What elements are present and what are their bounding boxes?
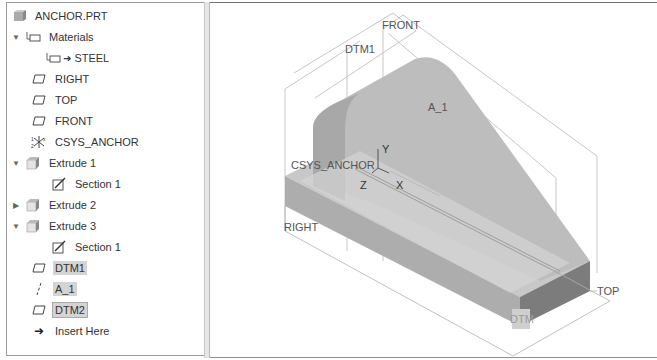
tree-item-insert-here[interactable]: ➜ Insert Here xyxy=(31,322,111,340)
tree-item-label: FRONT xyxy=(53,114,95,128)
svg-text:2: 2 xyxy=(31,143,34,149)
datum-plane-icon xyxy=(31,114,47,128)
tree-item-steel[interactable]: ➜ STEEL xyxy=(45,49,111,67)
tree-item-label: Insert Here xyxy=(53,324,111,338)
insert-arrow-icon: ➜ xyxy=(31,324,47,338)
sketch-icon xyxy=(51,177,67,191)
csys-axis-x: X xyxy=(396,179,403,191)
extrude-icon xyxy=(25,219,41,233)
tree-item-dtm2[interactable]: DTM2 xyxy=(31,301,87,319)
tree-item-a1[interactable]: A_1 xyxy=(31,280,77,298)
materials-icon xyxy=(25,30,41,44)
datum-label-dtm2[interactable]: DTM xyxy=(510,313,534,325)
tree-item-label: RIGHT xyxy=(53,72,91,86)
tree-item-label: DTM2 xyxy=(53,303,87,317)
tree-item-materials[interactable]: ▼ Materials xyxy=(11,28,96,46)
tree-item-extrude-3[interactable]: ▼ Extrude 3 xyxy=(11,217,98,235)
tree-item-csys-anchor[interactable]: 12x CSYS_ANCHOR xyxy=(31,133,141,151)
sketch-icon xyxy=(51,240,67,254)
tree-item-label: Section 1 xyxy=(73,177,123,191)
graphics-viewport[interactable]: FRONT DTM1 A_1 CSYS_ANCHOR Y Z X RIGHT T… xyxy=(210,2,657,358)
datum-label-front[interactable]: FRONT xyxy=(382,19,420,31)
extrude-icon xyxy=(25,198,41,212)
svg-text:1: 1 xyxy=(31,136,34,142)
datum-plane-icon xyxy=(31,303,47,317)
material-assigned-icon xyxy=(45,51,61,65)
tree-item-right[interactable]: RIGHT xyxy=(31,70,91,88)
tree-item-section-1[interactable]: Section 1 xyxy=(51,175,123,193)
axis-label-a1[interactable]: A_1 xyxy=(428,101,448,113)
tree-item-dtm1[interactable]: DTM1 xyxy=(31,259,87,277)
tree-item-label: CSYS_ANCHOR xyxy=(53,135,141,149)
tree-item-label: Materials xyxy=(47,30,96,44)
tree-item-top[interactable]: TOP xyxy=(31,91,79,109)
datum-axis-icon xyxy=(31,282,47,296)
csys-icon: 12x xyxy=(31,135,47,149)
tree-item-label: TOP xyxy=(53,93,79,107)
csys-axis-z: Z xyxy=(360,179,367,191)
tree-item-label: Extrude 2 xyxy=(47,198,98,212)
tree-item-label: Section 1 xyxy=(73,240,123,254)
tree-item-label: Extrude 3 xyxy=(47,219,98,233)
tree-item-label: A_1 xyxy=(53,282,77,296)
datum-label-dtm1[interactable]: DTM1 xyxy=(345,43,375,55)
tree-item-extrude-2[interactable]: ▶ Extrude 2 xyxy=(11,196,98,214)
tree-item-root[interactable]: ANCHOR.PRT xyxy=(11,7,110,25)
tree-item-label: Extrude 1 xyxy=(47,156,98,170)
model-tree-panel: ANCHOR.PRT ▼ Materials ➜ STEEL RIGHT TOP xyxy=(6,2,206,356)
csys-axis-y: Y xyxy=(382,143,389,155)
part-icon xyxy=(11,9,27,23)
tree-item-section-1[interactable]: Section 1 xyxy=(51,238,123,256)
3d-model-view xyxy=(210,3,657,359)
arrow-icon: ➜ xyxy=(63,53,71,64)
datum-plane-icon xyxy=(31,261,47,275)
collapse-arrow-icon[interactable]: ▶ xyxy=(11,201,21,210)
tree-item-label: ANCHOR.PRT xyxy=(33,9,110,23)
tree-item-front[interactable]: FRONT xyxy=(31,112,95,130)
extrude-icon xyxy=(25,156,41,170)
expand-arrow-icon[interactable]: ▼ xyxy=(11,222,21,231)
tree-item-label: DTM1 xyxy=(53,261,87,275)
datum-label-top[interactable]: TOP xyxy=(597,285,619,297)
tree-item-label: STEEL xyxy=(72,51,111,65)
expand-arrow-icon[interactable]: ▼ xyxy=(11,33,21,42)
datum-label-right[interactable]: RIGHT xyxy=(284,221,318,233)
expand-arrow-icon[interactable]: ▼ xyxy=(11,159,21,168)
tree-item-extrude-1[interactable]: ▼ Extrude 1 xyxy=(11,154,98,172)
datum-plane-icon xyxy=(31,93,47,107)
datum-plane-icon xyxy=(31,72,47,86)
svg-text:x: x xyxy=(43,136,46,142)
csys-label[interactable]: CSYS_ANCHOR xyxy=(291,159,375,171)
